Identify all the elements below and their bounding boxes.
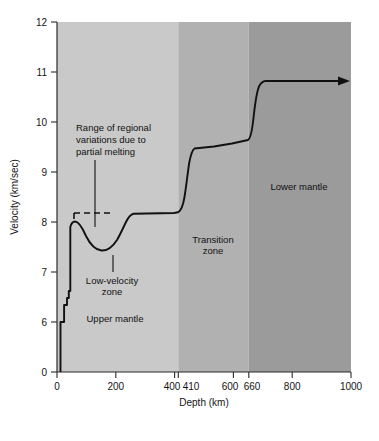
annot-range-line-3: partial melting [76,146,135,157]
zone-label-upper-mantle: Upper mantle [86,313,143,324]
x-tick-label-410: 410 [183,381,200,392]
zone-label-transition-zone-line-1: Transition [192,234,233,245]
y-tick-label-10: 10 [36,117,48,128]
zone-label-transition-zone-line-2: zone [203,245,224,256]
x-axis-title: Depth (km) [179,397,228,408]
annot-range-line-1: Range of regional [76,122,151,133]
x-tick-label-600: 600 [222,381,239,392]
annot-lvz-line-2: zone [102,286,123,297]
x-tick-label-0: 0 [54,381,60,392]
chart-svg: 12 11 10 9 8 7 6 0 0 200 400 410 600 [0,0,379,441]
zone-band-lower-mantle [249,22,351,372]
y-tick-labels: 12 11 10 9 8 7 6 0 [36,17,48,378]
x-tick-labels: 0 200 400 410 600 660 800 1000 [54,381,362,392]
y-tick-label-11: 11 [37,67,48,78]
y-tick-label-12: 12 [36,17,48,28]
y-tick-label-7: 7 [41,267,47,278]
y-tick-marks [51,22,57,372]
y-tick-label-9: 9 [41,167,47,178]
x-tick-label-400: 400 [164,381,181,392]
y-axis-title: Velocity (km/sec) [9,159,20,235]
annot-lvz-line-1: Low-velocity [86,275,139,286]
annot-range-line-2: variations due to [76,134,146,145]
x-tick-label-660: 660 [244,381,261,392]
zone-band-transition-zone [178,22,249,372]
x-tick-label-200: 200 [107,381,124,392]
y-tick-label-8: 8 [41,217,47,228]
y-tick-label-0: 0 [41,367,47,378]
seismic-velocity-chart: 12 11 10 9 8 7 6 0 0 200 400 410 600 [0,0,379,441]
x-tick-label-1000: 1000 [340,381,363,392]
y-tick-label-6: 6 [41,317,47,328]
x-tick-label-800: 800 [284,381,301,392]
zone-label-lower-mantle: Lower mantle [270,181,327,192]
x-tick-marks [57,372,351,378]
